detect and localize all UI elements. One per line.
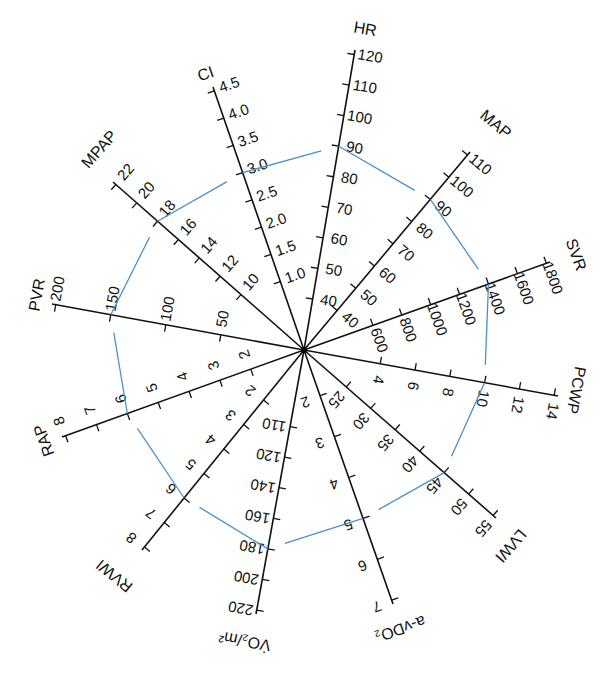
tick-label: 800	[396, 315, 420, 344]
tick-label: 1600	[511, 270, 538, 307]
tick-label: 80	[340, 168, 359, 188]
axis-mpap: 10121416182022MPAP	[78, 127, 304, 350]
axis-label: LVWI	[492, 526, 530, 566]
tick-label: 110	[261, 415, 288, 436]
center-point	[301, 347, 307, 353]
tick-label: 6	[162, 480, 179, 498]
tick-label: 8	[49, 414, 68, 428]
tick-label: 1400	[482, 280, 509, 317]
tick-label: 12	[508, 395, 528, 414]
tick-label: 7	[142, 504, 159, 522]
axis-vom: 110120140160180200220V̇O₂/m²	[217, 350, 304, 655]
axis-label: HR	[352, 18, 378, 39]
tick-label: 100	[157, 295, 178, 323]
tick-label: 1200	[453, 290, 480, 327]
axis-map: 405060708090100110MAP	[304, 106, 515, 350]
tick-label: 150	[102, 285, 123, 313]
tick-label: 1.5	[273, 236, 298, 259]
tick-label: 4	[202, 431, 219, 449]
tick-label: 4.0	[226, 100, 251, 123]
tick-label: 600	[367, 325, 391, 354]
axis-rap: 2345678RAP	[30, 348, 304, 459]
tick-label: 14	[543, 402, 563, 421]
axis-label: V̇O₂/m²	[217, 628, 272, 655]
tick-label: 10	[473, 389, 493, 408]
tick-label: 4	[327, 475, 340, 494]
tick-label: 140	[249, 476, 277, 497]
tick-label: 2	[299, 393, 312, 412]
tick-label: 10	[238, 270, 262, 294]
tick-label: 4	[173, 370, 192, 384]
tick-label: 120	[357, 45, 385, 66]
tick-label: 3	[204, 359, 223, 373]
tick-label: 200	[232, 568, 260, 589]
tick-label: 1.0	[282, 263, 307, 286]
tick-label: 3	[222, 406, 239, 424]
tick-label: 100	[346, 106, 374, 127]
tick-label: 5	[182, 455, 199, 473]
tick-label: 1000	[424, 301, 451, 338]
tick-label: 6	[405, 380, 423, 391]
tick-label: 7	[80, 403, 99, 417]
axis-rvwi: 2345678RVWI	[93, 350, 304, 596]
tick-label: 3	[313, 434, 326, 453]
tick-label: 50	[212, 309, 232, 328]
tick-label: 8	[439, 387, 457, 398]
tick-label: 200	[47, 275, 68, 303]
tick-label: 50	[357, 285, 381, 309]
axis-label: MAP	[477, 106, 515, 141]
tick-label: 80	[413, 219, 437, 243]
tick-label: 40	[339, 308, 363, 332]
tick-label: 220	[227, 598, 255, 619]
axis-ci: 1.01.52.02.53.03.54.04.5CI	[195, 63, 307, 350]
tick-label: 30	[349, 410, 373, 434]
tick-label: 6	[356, 557, 369, 576]
tick-label: 2	[242, 382, 259, 400]
tick-label: 180	[238, 537, 266, 558]
tick-label: 90	[345, 138, 364, 158]
axis-svr: 60080010001200140016001800SVR	[304, 236, 590, 354]
axis-label: SVR	[563, 236, 590, 273]
axis-label: CI	[195, 63, 216, 84]
tick-label: 55	[472, 517, 496, 541]
tick-label: 100	[447, 172, 477, 201]
tick-label: 14	[197, 233, 221, 257]
axis-avdo: 234567a-vDO₂	[299, 350, 428, 646]
tick-label: 2.0	[263, 209, 288, 232]
tick-label: 50	[324, 260, 343, 280]
axis-label: PVR	[25, 277, 48, 312]
tick-label: 160	[244, 506, 272, 527]
tick-label: 120	[255, 445, 283, 466]
tick-label: 20	[134, 178, 158, 202]
tick-label: 12	[218, 251, 242, 275]
tick-label: 110	[466, 150, 495, 178]
tick-label: 35	[374, 431, 398, 455]
tick-label: 7	[370, 598, 383, 617]
tick-label: 4	[370, 374, 388, 385]
tick-label: 60	[329, 229, 348, 249]
tick-label: 90	[432, 197, 456, 221]
tick-label: 110	[352, 76, 378, 97]
tick-label: 2	[234, 348, 253, 362]
tick-label: 8	[122, 529, 139, 547]
tick-label: 3.5	[235, 127, 260, 150]
tick-label: 70	[335, 199, 354, 219]
tick-label: 40	[398, 452, 422, 476]
tick-label: 22	[113, 160, 137, 184]
tick-label: 6	[111, 392, 130, 406]
axis-label: RVWI	[93, 556, 136, 595]
tick-label: 2.5	[254, 182, 279, 205]
tick-label: 40	[319, 290, 338, 310]
axis-label: PCWP	[564, 365, 589, 415]
axis-label: a-vDO₂	[373, 613, 428, 646]
tick-label: 25	[325, 388, 349, 412]
tick-label: 1800	[540, 259, 567, 296]
tick-label: 60	[376, 263, 400, 287]
tick-label: 5	[142, 381, 161, 395]
tick-label: 16	[176, 215, 200, 239]
axis-label: MPAP	[78, 127, 120, 171]
tick-label: 70	[394, 241, 418, 265]
chart-canvas: 405060708090100110120HR40506070809010011…	[0, 0, 604, 673]
tick-label: 4.5	[216, 73, 241, 96]
tick-label: 50	[447, 495, 471, 519]
